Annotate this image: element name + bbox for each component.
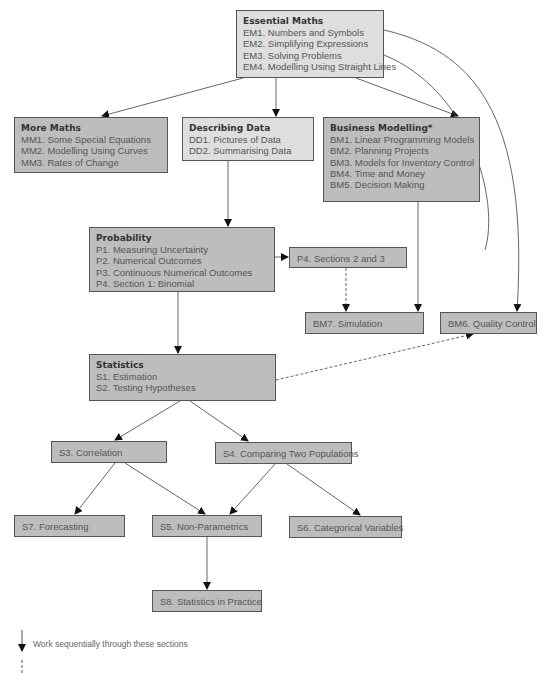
bm2-item: BM2. Planning Projects [330, 145, 473, 156]
em2-item: EM2. Simplifying Expressions [243, 38, 377, 49]
s7-box: S7. Forecasting [14, 515, 125, 537]
bm6-box: BM6. Quality Control [440, 312, 537, 334]
describing-data-box: Describing Data DD1. Pictures of Data DD… [182, 117, 314, 161]
p4-item: P4. Section 1: Binomial [96, 278, 268, 289]
p3-item: P3. Continuous Numerical Outcomes [96, 267, 268, 278]
s6-box: S6. Categorical Variables [289, 516, 402, 538]
bm6-label: BM6. Quality Control [448, 318, 536, 329]
bm3-item: BM3. Models for Inventory Control [330, 157, 473, 168]
p1-item: P1. Measuring Uncertainty [96, 244, 268, 255]
p4-sections-box: P4. Sections 2 and 3 [289, 247, 407, 268]
em3-item: EM3. Solving Problems [243, 50, 377, 61]
s3-label: S3. Correlation [59, 447, 122, 458]
p2-item: P2. Numerical Outcomes [96, 255, 268, 266]
mm2-item: MM2. Modelling Using Curves [21, 145, 161, 156]
s3-box: S3. Correlation [51, 441, 167, 463]
s5-label: S5. Non-Parametrics [160, 521, 248, 532]
s4-box: S4. Comparing Two Populations [215, 442, 352, 464]
essential-maths-title: Essential Maths [243, 16, 377, 27]
s8-box: S8. Statistics in Practice [152, 590, 262, 612]
business-modelling-box: Business Modelling* BM1. Linear Programm… [323, 117, 480, 202]
p4-sections-label: P4. Sections 2 and 3 [297, 253, 385, 264]
s1-item: S1. Estimation [96, 371, 269, 382]
bm7-box: BM7. Simulation [305, 312, 424, 334]
legend-solid-arrow-label: Work sequentially through these sections [33, 639, 188, 649]
s4-label: S4. Comparing Two Populations [223, 448, 359, 459]
describing-data-title: Describing Data [189, 123, 307, 134]
business-modelling-title: Business Modelling* [330, 123, 473, 134]
bm4-item: BM4. Time and Money [330, 168, 473, 179]
statistics-title: Statistics [96, 360, 269, 371]
connector-lines [0, 0, 554, 675]
em1-item: EM1. Numbers and Symbols [243, 27, 377, 38]
bm7-label: BM7. Simulation [313, 318, 382, 329]
essential-maths-box: Essential Maths EM1. Numbers and Symbols… [236, 10, 384, 78]
dd2-item: DD2. Summarising Data [189, 145, 307, 156]
em4-item: EM4. Modelling Using Straight Lines [243, 61, 377, 72]
mm1-item: MM1. Some Special Equations [21, 134, 161, 145]
probability-title: Probability [96, 233, 268, 244]
statistics-box: Statistics S1. Estimation S2. Testing Hy… [89, 354, 276, 401]
more-maths-title: More Maths [21, 123, 161, 134]
dd1-item: DD1. Pictures of Data [189, 134, 307, 145]
s6-label: S6. Categorical Variables [297, 522, 404, 533]
mm3-item: MM3. Rates of Change [21, 157, 161, 168]
s2-item: S2. Testing Hypotheses [96, 382, 269, 393]
s7-label: S7. Forecasting [22, 521, 89, 532]
more-maths-box: More Maths MM1. Some Special Equations M… [14, 117, 168, 173]
bm5-item: BM5. Decision Making [330, 179, 473, 190]
s5-box: S5. Non-Parametrics [152, 515, 262, 537]
probability-box: Probability P1. Measuring Uncertainty P2… [89, 227, 275, 292]
s8-label: S8. Statistics in Practice [160, 596, 262, 607]
bm1-item: BM1. Linear Programming Models [330, 134, 473, 145]
